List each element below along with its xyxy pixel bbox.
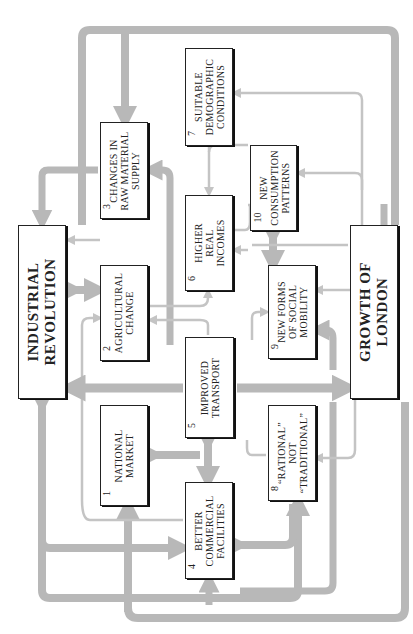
node-4-commercial: 4 BETTER COMMERCIAL FACILITIES xyxy=(185,482,233,579)
node-label-line: REAL xyxy=(204,219,215,266)
arrow-london-to-10 xyxy=(300,173,362,190)
node-label-line: NATIONAL xyxy=(113,429,124,482)
arrow-incomes-9 xyxy=(252,312,265,340)
node-number: 2 xyxy=(101,346,112,351)
node-label-line: CHANGE xyxy=(124,273,135,353)
node-label-line: NEW xyxy=(257,150,268,226)
arrow-box3-to-ir xyxy=(42,170,98,220)
node-label-line: MARKET xyxy=(124,429,135,482)
node-growth-of-london: GROWTH OF LONDON xyxy=(350,225,398,399)
arrow-agri-to-incomes xyxy=(150,293,208,306)
node-label-line: REVOLUTION xyxy=(42,258,59,365)
node-label-line: RAW MATERIAL xyxy=(119,131,130,210)
node-label-line: “TRADITIONAL” xyxy=(298,413,309,494)
node-label-line: BETTER xyxy=(193,495,204,566)
node-label-line: SUITABLE xyxy=(193,59,204,136)
node-label-line: INDUSTRIAL xyxy=(25,258,42,365)
node-label-line: TRANSPORT xyxy=(210,357,221,417)
node-label-line: LONDON xyxy=(374,262,391,362)
node-label-line: FACILITIES xyxy=(215,495,226,566)
node-label-line: NEW FORMS xyxy=(276,281,287,343)
node-10-consumption: 10 NEW CONSUMPTION PATTERNS xyxy=(250,145,297,231)
node-label-line: PATTERNS xyxy=(279,150,290,226)
node-label-line: NOT xyxy=(287,413,298,494)
node-label-line: MOBILITY xyxy=(298,281,309,343)
node-label-line: SUPPLY xyxy=(130,131,141,210)
node-number: 6 xyxy=(186,276,197,281)
node-number: 1 xyxy=(101,491,112,496)
node-label-line: CONSUMPTION xyxy=(268,150,279,226)
node-7-demographic: 7 SUITABLE DEMOGRAPHIC CONDITIONS xyxy=(185,48,233,146)
node-label-line: HIGHER xyxy=(193,219,204,266)
arrow-to-9-from-below xyxy=(319,330,333,370)
node-label-line: IMPROVED xyxy=(199,357,210,417)
arrow-demog-to-10 xyxy=(209,145,248,152)
arrow-transport-to-agri xyxy=(152,320,208,335)
node-label-line: GROWTH OF xyxy=(357,262,374,362)
node-8-rational: 8 “RATIONAL” NOT “TRADITIONAL” xyxy=(268,405,316,501)
node-label-line: CHANGES IN xyxy=(108,131,119,210)
arrow-to-agri-thin xyxy=(82,318,98,500)
arrow-8-thin-out xyxy=(247,440,266,455)
arrow-commercial-8 xyxy=(237,504,293,545)
node-2-agricultural: 2 AGRICULTURAL CHANGE xyxy=(100,265,148,361)
node-label-line: AGRICULTURAL xyxy=(113,273,124,353)
node-6-higher-incomes: 6 HIGHER REAL INCOMES xyxy=(185,195,233,291)
node-label-line: CONDITIONS xyxy=(215,59,226,136)
node-5-transport: 5 IMPROVED TRANSPORT xyxy=(185,337,234,438)
node-9-social-mobility: 9 NEW FORMS OF SOCIAL MOBILITY xyxy=(268,265,316,359)
node-label-line: INCOMES xyxy=(215,219,226,266)
node-number: 9 xyxy=(269,344,280,349)
node-label-line: “RATIONAL” xyxy=(276,413,287,494)
node-3-raw-material: 3 CHANGES IN RAW MATERIAL SUPPLY xyxy=(100,122,148,219)
node-label-line: COMMERCIAL xyxy=(204,495,215,566)
node-label-line: OF SOCIAL xyxy=(287,281,298,343)
node-industrial-revolution: INDUSTRIAL REVOLUTION xyxy=(18,225,66,399)
arrow-incomes-to-10 xyxy=(235,205,250,230)
node-number: 5 xyxy=(186,423,197,428)
arrow-to-national xyxy=(128,402,405,618)
node-label-line: DEMOGRAPHIC xyxy=(204,59,215,136)
node-1-national-market: 1 NATIONAL MARKET xyxy=(100,405,148,506)
